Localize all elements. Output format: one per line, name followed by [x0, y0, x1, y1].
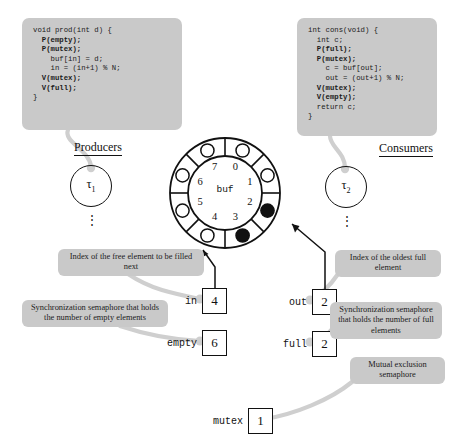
ring-sector-divider	[186, 154, 199, 167]
buffer-slot-index: 1	[244, 176, 256, 187]
code-line: out = (out+1) % N;	[308, 74, 427, 84]
ring-sector-divider	[186, 219, 199, 232]
variable-empty-name: empty	[167, 338, 197, 349]
ring-sector-divider	[251, 154, 264, 167]
buffer-name-label: buf	[167, 184, 283, 195]
arrow-in-to-slot	[203, 250, 215, 288]
code-line: buf[in] = d;	[33, 55, 172, 65]
producer-ellipsis: ⋮	[86, 218, 96, 222]
buffer-slot-empty[interactable]	[201, 229, 214, 242]
consumer-thread-label: τ2	[326, 178, 366, 195]
producers-heading: Producers	[74, 140, 122, 156]
ring-sector-divider	[251, 219, 264, 232]
consumer-thread-circle: τ2	[325, 166, 367, 208]
code-line: P(mutex);	[308, 55, 427, 65]
buffer-slot-index: 4	[209, 211, 221, 222]
buffer-slot-empty[interactable]	[261, 169, 274, 182]
producer-thread-circle: τ1	[70, 165, 112, 207]
code-line: void prod(int d) {	[33, 26, 172, 36]
circular-buffer: buf 01234567	[167, 134, 283, 252]
connector-callout-mutex	[265, 382, 352, 419]
buffer-slot-index: 2	[244, 196, 256, 207]
buffer-slot-empty[interactable]	[176, 204, 189, 217]
buffer-slot-filled[interactable]	[261, 204, 274, 217]
callout-mutex: Mutual exclusion semaphore	[350, 357, 445, 384]
buffer-slot-index: 6	[194, 176, 206, 187]
variable-empty-value[interactable]: 6	[202, 330, 227, 356]
variable-mutex-name: mutex	[213, 416, 243, 427]
callout-in: Index of the free element to be filled n…	[58, 249, 204, 276]
tau-subscript: 2	[347, 186, 351, 195]
variable-in-value[interactable]: 4	[202, 288, 227, 314]
code-line: V(mutex);	[33, 74, 172, 84]
consumer-code-block: int cons(void) { int c; P(full); P(mutex…	[297, 18, 437, 136]
consumer-ellipsis: ⋮	[341, 219, 351, 223]
buffer-slot-index: 0	[229, 161, 241, 172]
variable-mutex-value[interactable]: 1	[248, 408, 273, 434]
arrowhead-out	[292, 224, 300, 233]
buffer-slot-index: 5	[194, 196, 206, 207]
variable-empty: empty 6	[202, 330, 227, 356]
variable-mutex: mutex 1	[248, 408, 273, 434]
arrow-out-to-slot	[292, 224, 325, 289]
callout-full: Synchronization semaphore that holds the…	[330, 302, 442, 339]
code-line: c = buf[out];	[308, 64, 427, 74]
buffer-slot-empty[interactable]	[201, 144, 214, 157]
code-line: V(mutex);	[308, 84, 427, 94]
buffer-slot-empty[interactable]	[176, 169, 189, 182]
connector-consumer-thread	[330, 136, 345, 168]
code-line: int c;	[308, 36, 427, 46]
consumers-heading: Consumers	[379, 141, 433, 157]
variable-in-name: in	[185, 296, 197, 307]
code-line: }	[33, 93, 172, 103]
producer-code-block: void prod(int d) { P(empty); P(mutex); b…	[22, 18, 182, 130]
code-line: P(full);	[308, 45, 427, 55]
code-line: P(mutex);	[33, 45, 172, 55]
tau-subscript: 1	[92, 185, 96, 194]
buffer-slot-index: 3	[229, 211, 241, 222]
code-line: in = (in+1) % N;	[33, 64, 172, 74]
code-line: P(empty);	[33, 36, 172, 46]
buffer-slot-filled[interactable]	[236, 229, 249, 242]
buffer-slot-index: 7	[209, 161, 221, 172]
code-line: V(full);	[33, 84, 172, 94]
callout-out: Index of the oldest full element	[335, 250, 441, 277]
producer-thread-label: τ1	[71, 177, 111, 194]
variable-in: in 4	[202, 288, 227, 314]
variable-full-name: full	[283, 339, 307, 350]
code-line: return c;	[308, 103, 427, 113]
variable-out-name: out	[289, 297, 307, 308]
diagram-canvas: void prod(int d) { P(empty); P(mutex); b…	[0, 0, 454, 446]
code-line: V(empty);	[308, 93, 427, 103]
buffer-slot-empty[interactable]	[236, 144, 249, 157]
code-line: }	[308, 112, 427, 122]
callout-empty: Synchronization semaphore that holds the…	[22, 300, 168, 327]
code-line: int cons(void) {	[308, 26, 427, 36]
